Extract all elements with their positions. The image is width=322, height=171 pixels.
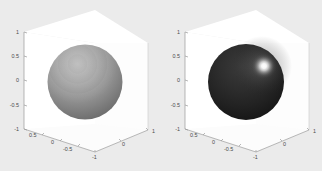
sphere-banding-overlay [48, 45, 123, 120]
z-tick-label: 0.5 [173, 53, 181, 59]
x-tick-label: 1 [152, 128, 155, 134]
x-tick-label: -1 [92, 154, 97, 160]
z-tick-label: -0.5 [10, 102, 19, 108]
z-tick-label: 0 [177, 77, 180, 83]
x-tick-label: 0 [122, 141, 125, 147]
y-tick-label: -0.5 [224, 146, 233, 152]
sphere-specular-highlight [251, 53, 278, 80]
z-tick-label: -1 [14, 126, 19, 132]
z-tick-label: -0.5 [171, 102, 180, 108]
y-tick-label: 0 [212, 139, 215, 145]
z-tick-label: 1 [177, 29, 180, 35]
axes-left-svg: 1 0.5 0 -0.5 -1 0.5 0 -0.5 1 0 -1 [0, 0, 161, 171]
z-tick-label: -1 [175, 126, 180, 132]
x-tick-label: 1 [313, 128, 316, 134]
z-tick-label: 1 [16, 29, 19, 35]
x-tick-label: -1 [253, 154, 258, 160]
z-tick-label: 0 [16, 77, 19, 83]
axes-panel-left[interactable]: 1 0.5 0 -0.5 -1 0.5 0 -0.5 1 0 -1 [0, 0, 161, 171]
y-tick-label: 0.5 [190, 132, 198, 138]
x-tick-label: 0 [283, 141, 286, 147]
axes-panel-right[interactable]: 1 0.5 0 -0.5 -1 0.5 0 -0.5 1 0 -1 [161, 0, 322, 171]
y-tick-label: -0.5 [63, 146, 72, 152]
axes-right-svg: 1 0.5 0 -0.5 -1 0.5 0 -0.5 1 0 -1 [161, 0, 322, 171]
z-tick-label: 0.5 [12, 53, 20, 59]
y-tick-label: 0 [51, 139, 54, 145]
y-tick-label: 0.5 [29, 132, 37, 138]
figure-canvas: 1 0.5 0 -0.5 -1 0.5 0 -0.5 1 0 -1 [0, 0, 322, 171]
